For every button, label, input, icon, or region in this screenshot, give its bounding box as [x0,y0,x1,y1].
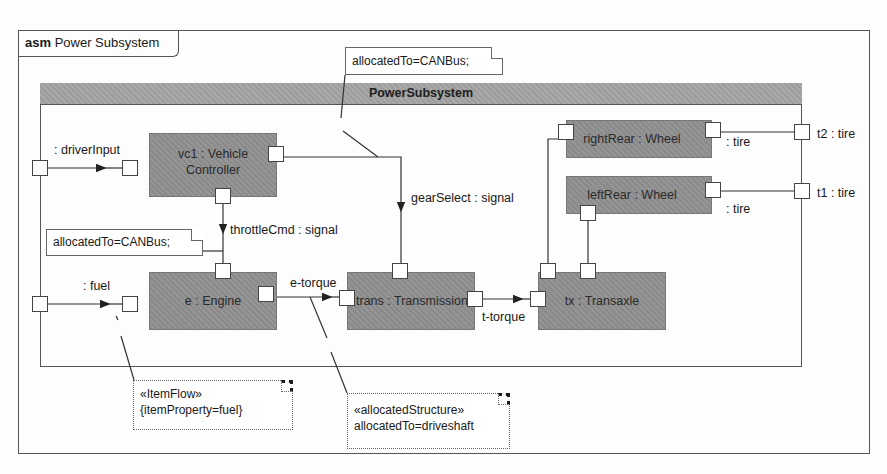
label-gear-select: gearSelect : signal [411,191,514,205]
port-tx-torque-in[interactable] [530,291,546,307]
port-engine-throttle-in[interactable] [215,263,231,279]
note-fold-icon [281,380,293,392]
port-trans-gear-in[interactable] [392,263,408,279]
note-text: allocatedTo=driveshaft [354,418,503,434]
port-boundary-t2[interactable] [794,124,810,140]
note-text: allocatedTo=CANBus; [53,235,170,249]
port-tx-left[interactable] [580,263,596,279]
diagram-canvas: asm Power Subsystem PowerSubsystem [0,0,887,474]
label-e-torque: e-torque [290,276,337,290]
label-tire-left: : tire [726,202,750,216]
port-tx-right[interactable] [540,263,556,279]
note-allocated-canbus-top: allocatedTo=CANBus; [345,47,503,75]
block-label: leftRear : Wheel [587,187,677,203]
label-driver-input: : driverInput [54,143,120,157]
block-label: tx : Transaxle [565,293,639,309]
port-engine-fuel-in[interactable] [122,296,138,312]
block-label: Controller [186,162,240,178]
port-boundary-fuel[interactable] [32,296,48,312]
port-left-rear-tire[interactable] [705,182,721,198]
note-fold-icon [498,393,510,405]
note-allocated-canbus-left: allocatedTo=CANBus; [46,229,203,256]
label-t2: t2 : tire [817,127,855,141]
label-fuel: : fuel [83,279,110,293]
port-engine-torque-out[interactable] [258,286,274,302]
block-vehicle-controller[interactable]: vc1 : Vehicle Controller [149,133,277,197]
frame-title: Power Subsystem [55,35,160,50]
port-trans-torque-out[interactable] [467,291,483,307]
label-t-torque: t-torque [482,310,525,324]
note-stereotype: «ItemFlow» [140,386,286,402]
port-vc1-throttle-out[interactable] [215,188,231,204]
port-vc1-in[interactable] [122,160,138,176]
block-transaxle[interactable]: tx : Transaxle [538,272,666,330]
note-fold-icon [491,47,503,59]
note-text: allocatedTo=CANBus; [352,54,469,68]
label-tire-right: : tire [726,135,750,149]
block-right-rear-wheel[interactable]: rightRear : Wheel [566,120,712,158]
frame-kind: asm [25,35,51,50]
block-label: rightRear : Wheel [583,131,680,147]
note-fold-icon [191,229,203,241]
label-throttle-cmd: throttleCmd : signal [230,223,338,237]
port-vc1-gear-out[interactable] [268,146,284,162]
block-label: trans : Transmission [356,293,468,309]
note-item-flow: «ItemFlow» {itemProperty=fuel} [133,380,293,430]
power-subsystem-header: PowerSubsystem [40,83,802,105]
note-text: {itemProperty=fuel} [140,402,286,418]
block-label: vc1 : Vehicle [178,146,248,162]
port-left-rear-axle[interactable] [580,205,596,221]
port-right-rear-axle[interactable] [558,124,574,140]
label-t1: t1 : tire [817,186,855,200]
port-right-rear-tire[interactable] [705,122,721,138]
port-boundary-t1[interactable] [794,183,810,199]
block-transmission[interactable]: trans : Transmission [347,272,475,330]
port-boundary-driver-input[interactable] [32,160,48,176]
frame-title-tab: asm Power Subsystem [19,31,179,57]
port-trans-torque-in[interactable] [339,290,355,306]
note-allocated-structure: «allocatedStructure» allocatedTo=drivesh… [347,393,510,449]
note-stereotype: «allocatedStructure» [354,402,503,418]
block-label: e : Engine [185,293,241,309]
